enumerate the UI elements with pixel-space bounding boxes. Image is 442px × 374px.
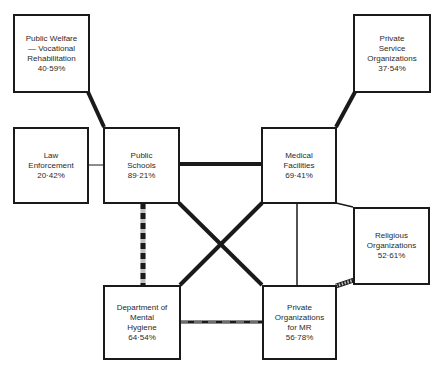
node-religious-organizations: Religious Organizations 52·61%	[353, 207, 430, 285]
edge-private-service-medical	[336, 92, 355, 127]
node-label-line: Department of	[117, 303, 168, 313]
node-value: 69·41%	[285, 171, 313, 181]
node-label-line: Public Welfare	[26, 34, 77, 44]
node-label-line: Organizations	[275, 313, 324, 323]
node-label-line: Law	[44, 151, 59, 161]
edge-public-welfare-public-schools	[88, 92, 104, 127]
node-private-orgs-mr: Private Organizations for MR 56·78%	[262, 285, 337, 360]
node-label-line: Facilities	[283, 161, 314, 171]
node-value: 64·54%	[128, 333, 156, 343]
node-public-schools: Public Schools 89·21%	[103, 127, 180, 204]
node-value: 56·78%	[286, 333, 314, 343]
node-label-line: Medical	[285, 151, 313, 161]
node-value: 52·61%	[378, 251, 406, 261]
node-label-line: Hygiene	[127, 323, 156, 333]
node-value: 37·54%	[378, 64, 406, 74]
node-label-line: Private	[287, 303, 312, 313]
diagram-canvas: Public Welfare — Vocational Rehabilitati…	[0, 0, 442, 374]
node-label-line: Service	[379, 44, 406, 54]
node-label-line: Religious	[375, 231, 408, 241]
node-label-line: Mental	[130, 313, 154, 323]
node-label-line: for MR	[288, 323, 312, 333]
node-dept-mental-hygiene: Department of Mental Hygiene 64·54%	[103, 285, 181, 360]
node-label-line: Rehabilitation	[27, 54, 75, 64]
node-label-line: Enforcement	[28, 161, 73, 171]
node-value: 89·21%	[128, 171, 156, 181]
node-label-line: Private	[380, 34, 405, 44]
node-public-welfare: Public Welfare — Vocational Rehabilitati…	[13, 14, 90, 93]
node-value: 20·42%	[37, 171, 65, 181]
node-medical-facilities: Medical Facilities 69·41%	[261, 127, 337, 204]
node-label-line: Organizations	[367, 54, 416, 64]
node-label-line: Public	[131, 151, 153, 161]
node-label-line: — Vocational	[28, 44, 75, 54]
node-value: 40·59%	[38, 64, 66, 74]
edge-medical-religious	[336, 203, 353, 207]
node-label-line: Schools	[127, 161, 155, 171]
node-private-service: Private Service Organizations 37·54%	[353, 14, 431, 93]
node-label-line: Organizations	[367, 241, 416, 251]
node-law-enforcement: Law Enforcement 20·42%	[13, 127, 89, 204]
